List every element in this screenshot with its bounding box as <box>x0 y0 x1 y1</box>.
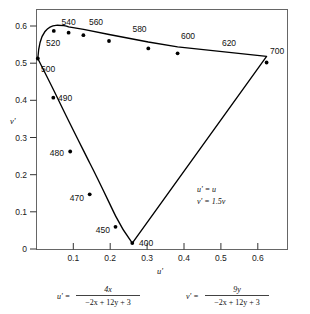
point-500 <box>36 57 40 61</box>
x-tick-label-0.2: 0.2 <box>104 253 116 263</box>
x-tick-label-0.6: 0.6 <box>252 253 264 263</box>
y-tick-label-0.2: 0.2 <box>15 170 27 180</box>
formula-v-prime: v' = 9y −2x + 12y + 3 <box>186 285 269 307</box>
wavelength-label-520: 520 <box>46 38 60 48</box>
point-560 <box>82 33 86 37</box>
wavelength-label-700: 700 <box>270 46 284 56</box>
point-490 <box>51 96 55 100</box>
point-600 <box>146 47 150 51</box>
plot-frame <box>37 10 288 250</box>
note-line-2: v' = 1.5v <box>197 197 226 206</box>
wavelength-label-580: 580 <box>132 24 146 34</box>
y-axis-title: v' <box>10 116 16 126</box>
wavelength-label-600: 600 <box>181 31 195 41</box>
point-450 <box>114 225 118 229</box>
point-520 <box>52 29 56 33</box>
point-470 <box>88 192 92 196</box>
chromaticity-diagram-figure: 0 0.1 0.2 0.3 0.4 0.5 0.6 0.1 0.2 0.3 0.… <box>0 0 310 314</box>
x-tick-label-0.4: 0.4 <box>178 253 190 263</box>
point-620 <box>176 51 180 55</box>
formula-v-lhs: v' = <box>186 292 199 301</box>
x-axis-title: u' <box>157 266 163 276</box>
spectral-locus-curve <box>38 25 267 243</box>
y-tick-label-0.3: 0.3 <box>15 133 27 143</box>
y-tick-label-0.1: 0.1 <box>15 207 27 217</box>
formula-u-lhs: u' = <box>57 292 70 301</box>
formula-u-prime: u' = 4x −2x + 12y + 3 <box>57 285 140 307</box>
point-580 <box>107 39 111 43</box>
formula-v-denominator: −2x + 12y + 3 <box>214 298 260 307</box>
wavelength-label-470: 470 <box>70 193 84 203</box>
wavelength-marker-group <box>36 29 269 245</box>
wavelength-label-480: 480 <box>50 148 64 158</box>
x-tick-label-0.3: 0.3 <box>141 253 153 263</box>
wavelength-label-620: 620 <box>222 38 236 48</box>
wavelength-label-400: 400 <box>139 238 153 248</box>
y-tick-label-0: 0 <box>22 244 27 254</box>
x-tick-label-0.5: 0.5 <box>215 253 227 263</box>
y-tick-label-0.4: 0.4 <box>15 95 27 105</box>
note-line-1: u' = u <box>197 185 216 194</box>
point-400 <box>130 241 134 245</box>
x-axis-ticks <box>73 243 257 250</box>
wavelength-label-540: 540 <box>62 17 76 27</box>
formula-u-denominator: −2x + 12y + 3 <box>85 298 131 307</box>
y-axis-ticks <box>30 26 37 249</box>
wavelength-label-450: 450 <box>96 225 110 235</box>
formula-v-numerator: 9y <box>233 285 241 294</box>
formula-u-numerator: 4x <box>104 285 112 294</box>
y-tick-label-0.6: 0.6 <box>15 21 27 31</box>
point-540 <box>67 31 71 35</box>
point-480 <box>68 150 72 154</box>
y-tick-label-0.5: 0.5 <box>15 58 27 68</box>
point-700 <box>265 61 269 65</box>
wavelength-label-560: 560 <box>89 17 103 27</box>
wavelength-label-500: 500 <box>41 64 55 74</box>
x-tick-label-0.1: 0.1 <box>67 253 79 263</box>
wavelength-label-490: 490 <box>58 93 72 103</box>
